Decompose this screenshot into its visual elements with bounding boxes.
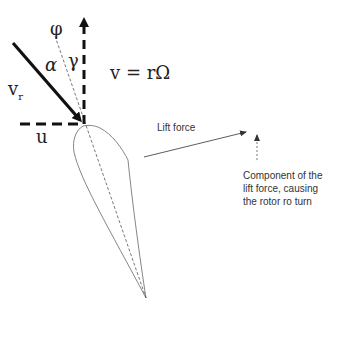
lift-force-arrow (144, 132, 246, 157)
gamma-label: γ (68, 50, 79, 71)
alpha-label: α (45, 54, 57, 75)
vr-label: vr (8, 78, 23, 102)
component-label: Component of the lift force, causing the… (243, 169, 323, 208)
lift-force-label: Lift force (157, 121, 195, 134)
v-equation-label: v = rΩ (110, 62, 170, 83)
u-label: u (36, 126, 48, 147)
airfoil-outline (73, 125, 146, 298)
phi-label: φ (50, 18, 63, 39)
